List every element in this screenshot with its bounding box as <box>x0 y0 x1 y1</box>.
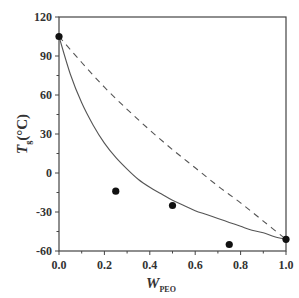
data-points <box>55 33 289 248</box>
y-tick-label: 120 <box>34 10 52 24</box>
plot-border <box>59 17 286 251</box>
y-tick-label: -60 <box>36 244 52 258</box>
x-tick-label: 0.0 <box>52 258 67 272</box>
y-tick-label: 30 <box>40 127 52 141</box>
plot-frame <box>59 17 286 251</box>
x-tick-label: 1.0 <box>279 258 294 272</box>
y-tick-label: 60 <box>40 88 52 102</box>
chart: 0.00.20.40.60.81.0 -60-300306090120 WPEO… <box>0 0 299 298</box>
x-axis-title: WPEO <box>146 275 176 294</box>
data-point <box>169 202 176 209</box>
data-point <box>55 33 62 40</box>
x-axis-ticks: 0.00.20.40.60.81.0 <box>52 251 294 272</box>
x-tick-label: 0.6 <box>188 258 203 272</box>
y-axis-ticks: -60-300306090120 <box>34 10 59 258</box>
y-tick-label: 0 <box>46 166 52 180</box>
x-tick-label: 0.2 <box>97 258 112 272</box>
y-axis-title: Tg(°C) <box>14 114 33 154</box>
x-tick-label: 0.4 <box>142 258 157 272</box>
x-tick-label: 0.8 <box>233 258 248 272</box>
y-tick-label: 90 <box>40 49 52 63</box>
data-point <box>282 236 289 243</box>
y-tick-label: -30 <box>36 205 52 219</box>
data-point <box>112 188 119 195</box>
data-point <box>226 241 233 248</box>
